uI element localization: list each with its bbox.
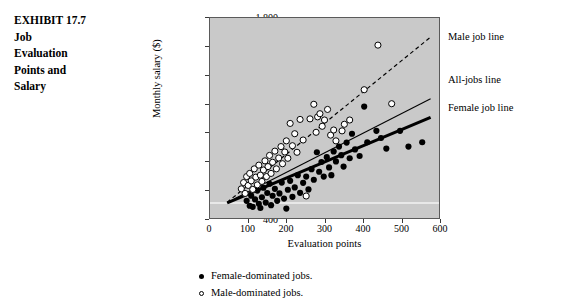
- data-point-female: [295, 172, 301, 178]
- x-tick-mark: [248, 219, 249, 223]
- data-point-female: [264, 190, 270, 196]
- data-point-male: [278, 144, 284, 150]
- x-axis-title: Evaluation points: [209, 238, 440, 249]
- data-point-male: [324, 106, 330, 112]
- x-tick-label: 200: [279, 223, 294, 234]
- data-point-female: [357, 153, 363, 159]
- x-tick-label: 600: [433, 223, 448, 234]
- data-point-female: [336, 144, 342, 150]
- data-point-female: [281, 196, 287, 202]
- data-point-male: [297, 116, 303, 122]
- data-point-female: [303, 174, 309, 180]
- x-tick-label: 500: [394, 223, 409, 234]
- legend-label-female: Female-dominated jobs.: [211, 270, 312, 281]
- data-point-female: [378, 135, 384, 141]
- data-point-male: [242, 190, 248, 196]
- data-point-female: [272, 186, 278, 192]
- data-point-male: [341, 121, 347, 127]
- scatter-chart: Monthly salary ($) 4006008001,0001,2001,…: [155, 0, 567, 308]
- data-point-male: [285, 155, 291, 161]
- x-tick-label: 0: [207, 223, 212, 234]
- data-point-male: [307, 116, 313, 122]
- data-point-male: [272, 148, 278, 154]
- y-axis-title: Monthly salary ($): [151, 39, 162, 118]
- exhibit-caption-line: Evaluation: [14, 45, 154, 62]
- data-point-female: [259, 194, 265, 200]
- data-point-female: [349, 131, 355, 137]
- exhibit-caption-line: Job: [14, 29, 154, 46]
- data-point-female: [297, 190, 303, 196]
- data-point-male: [333, 138, 339, 144]
- data-point-male: [313, 129, 319, 135]
- legend-item-female: Female-dominated jobs.: [195, 267, 312, 284]
- x-tick-label: 300: [317, 223, 332, 234]
- data-point-female: [305, 186, 311, 192]
- legend-label-male: Male-dominated jobs.: [211, 287, 303, 298]
- open-circle-icon: [195, 288, 208, 298]
- data-point-male: [279, 161, 285, 167]
- data-point-male: [347, 117, 353, 123]
- data-point-female: [352, 146, 358, 152]
- data-point-female: [314, 149, 320, 155]
- data-point-female: [285, 187, 291, 193]
- legend-item-male: Male-dominated jobs.: [195, 284, 312, 301]
- data-point-male: [283, 138, 289, 144]
- data-point-female: [397, 128, 403, 134]
- data-point-female: [308, 166, 314, 172]
- data-point-female: [347, 155, 353, 161]
- data-point-female: [274, 198, 280, 204]
- all-jobs-line-label: All-jobs line: [448, 74, 501, 85]
- data-point-female: [341, 164, 347, 170]
- data-point-female: [328, 172, 334, 178]
- data-point-female: [419, 139, 425, 145]
- data-point-female: [405, 144, 411, 150]
- data-point-male: [273, 166, 279, 172]
- data-point-female: [364, 139, 370, 145]
- data-point-female: [287, 178, 293, 184]
- data-point-female: [321, 174, 327, 180]
- data-point-female: [333, 158, 339, 164]
- plot-canvas: [210, 18, 439, 218]
- x-tick-mark: [402, 219, 403, 223]
- data-point-female: [270, 193, 276, 199]
- data-point-male: [300, 137, 306, 143]
- filled-circle-icon: [195, 271, 208, 281]
- male-job-line-label: Male job line: [448, 31, 504, 42]
- x-tick-mark: [363, 219, 364, 223]
- data-point-male: [317, 111, 323, 117]
- data-point-male: [259, 178, 265, 184]
- data-point-male: [339, 128, 345, 134]
- data-point-female: [250, 204, 256, 210]
- data-point-female: [383, 146, 389, 152]
- data-point-female: [260, 185, 266, 191]
- data-point-female: [338, 152, 344, 158]
- data-point-male: [268, 170, 274, 176]
- data-point-male: [289, 143, 295, 149]
- data-point-female: [326, 164, 332, 170]
- data-point-male: [331, 127, 337, 133]
- data-point-female: [316, 169, 322, 175]
- data-point-male: [321, 117, 327, 123]
- data-point-female: [263, 200, 269, 206]
- data-point-male: [303, 193, 309, 199]
- data-point-male: [375, 42, 381, 48]
- x-tick-mark: [325, 219, 326, 223]
- data-point-female: [268, 202, 274, 208]
- data-point-female: [318, 159, 324, 165]
- data-point-male: [270, 159, 276, 165]
- data-point-female: [373, 128, 379, 134]
- exhibit-caption-line: Salary: [14, 78, 154, 95]
- data-point-female: [279, 180, 285, 186]
- exhibit-figure: EXHIBIT 17.7 Job Evaluation Points and S…: [0, 0, 567, 308]
- data-point-female: [257, 205, 263, 211]
- data-point-male: [287, 120, 293, 126]
- female-job-line-label: Female job line: [448, 102, 513, 113]
- data-point-male: [294, 149, 300, 155]
- data-point-female: [292, 184, 298, 190]
- data-point-female: [289, 194, 295, 200]
- exhibit-caption-line: EXHIBIT 17.7: [14, 12, 154, 29]
- data-point-male: [361, 87, 367, 93]
- data-point-female: [300, 180, 306, 186]
- data-point-female: [331, 148, 337, 154]
- y-tick-mark: [205, 219, 209, 220]
